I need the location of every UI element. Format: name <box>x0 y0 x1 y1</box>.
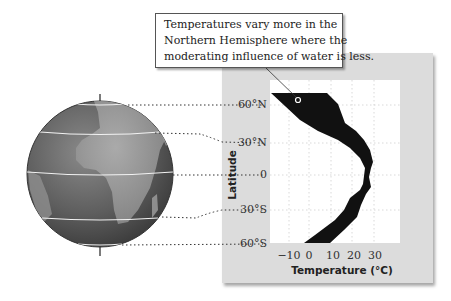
callout-line-2: Northern Hemisphere where the <box>164 33 342 49</box>
lat-label-30s: 30°S <box>240 203 267 216</box>
x-tick-20: 20 <box>347 249 361 262</box>
x-tick-0: 0 <box>306 249 313 262</box>
lat-label-60s: 60°S <box>240 237 267 250</box>
callout-line-1: Temperatures vary more in the <box>164 17 342 33</box>
callout-pointer-dot <box>296 98 301 103</box>
annotation-callout: Temperatures vary more in the Northern H… <box>155 13 343 68</box>
callout-line-3: moderating influence of water is less. <box>164 49 342 65</box>
lat-label-60n: 60°N <box>238 98 267 111</box>
x-tick-30: 30 <box>368 249 382 262</box>
x-tick-10: 10 <box>326 249 340 262</box>
lat-label-30n: 30°N <box>238 136 267 149</box>
x-axis-label: Temperature (°C) <box>262 264 422 276</box>
y-axis-label: Latitude <box>226 150 238 200</box>
x-tick-minus10: −10 <box>277 249 300 262</box>
lat-label-equator: 0 <box>260 168 267 181</box>
globe <box>27 96 176 247</box>
